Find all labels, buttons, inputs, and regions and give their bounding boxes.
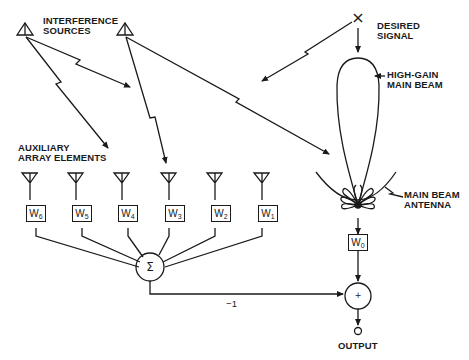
weight-w6: W6 <box>26 205 46 222</box>
interference-ray-1a <box>26 37 130 87</box>
high-gain-main-beam-label: HIGH-GAIN MAIN BEAM <box>387 70 443 90</box>
output-label: OUTPUT <box>338 341 378 351</box>
interference-ray-2b <box>126 37 329 154</box>
weight-w5: W5 <box>72 205 92 222</box>
desired-signal-label: DESIRED SIGNAL <box>377 21 420 41</box>
interference-sources-label: INTERFERENCE SOURCES <box>43 16 118 36</box>
interference-source-icon-2 <box>117 23 133 35</box>
adder-symbol: + <box>352 290 364 302</box>
negation-gain-label: −1 <box>226 299 237 309</box>
auxiliary-array-elements-label: AUXILIARY ARRAY ELEMENTS <box>18 143 107 163</box>
weight-w2: W2 <box>211 205 231 222</box>
summer-symbol: Σ <box>140 260 160 274</box>
output-terminal <box>355 328 362 335</box>
antenna-leader <box>385 187 403 197</box>
interference-ray-1b <box>26 37 108 148</box>
desired-signal-marker-icon: × <box>349 10 367 26</box>
weight-w4: W4 <box>118 205 138 222</box>
weight-w0: W0 <box>348 234 368 251</box>
high-gain-main-beam <box>337 58 379 205</box>
interference-source-icon-1 <box>17 23 33 35</box>
weight-w1: W1 <box>258 205 278 222</box>
main-beam-antenna-label: MAIN BEAM ANTENNA <box>404 190 460 210</box>
weight-w3: W3 <box>165 205 185 222</box>
auxiliary-antennas <box>22 173 269 200</box>
